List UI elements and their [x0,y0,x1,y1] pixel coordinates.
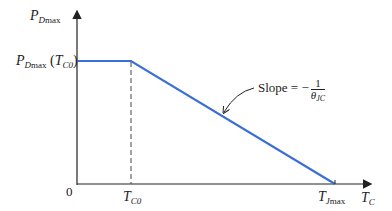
y-axis-label: PDmax [30,9,61,23]
diagram-canvas [0,0,392,211]
tjmax-label: TJmax [318,190,345,204]
plateau-label: PDmax (TC0) [16,54,78,68]
x-axis-label: TC [361,191,375,205]
slope-arrow [224,88,254,112]
derating-diagram: PDmax PDmax (TC0) 0 TC0 TJmax TC Slope =… [0,0,392,211]
slope-annotation: Slope = −1θJC [258,78,325,101]
origin-label: 0 [66,185,73,198]
tc0-label: TC0 [123,190,141,204]
